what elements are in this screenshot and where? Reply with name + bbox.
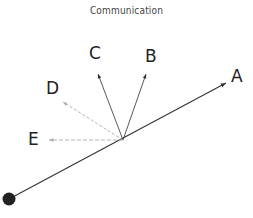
label-c: C [89,45,101,62]
arrow-c [98,74,123,140]
origin-dot [3,193,16,206]
main-line-a [9,83,226,199]
label-d: D [46,80,59,97]
label-e: E [28,131,39,148]
label-a: A [231,68,243,85]
arrow-b [123,74,146,140]
arrow-d-dashed [63,102,123,140]
label-b: B [145,48,157,65]
vector-diagram [0,0,253,218]
